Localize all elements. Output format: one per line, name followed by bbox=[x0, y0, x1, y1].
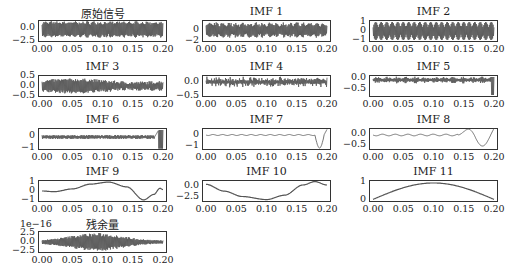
x-tick-label: 0.05 bbox=[221, 98, 251, 109]
y-tick-label: −0.5 bbox=[335, 82, 366, 93]
signal-line bbox=[370, 76, 497, 96]
x-tick-label: 0.10 bbox=[419, 98, 449, 109]
x-tick-label: 0.10 bbox=[252, 203, 282, 214]
x-tick-label: 0.15 bbox=[449, 203, 479, 214]
plot-area bbox=[202, 128, 331, 150]
x-tick-label: 0.00 bbox=[358, 98, 388, 109]
x-tick-label: 0.10 bbox=[88, 98, 118, 109]
signal-line bbox=[203, 21, 330, 41]
signal-line bbox=[370, 129, 497, 149]
plot-area bbox=[202, 75, 331, 97]
signal-line bbox=[203, 129, 330, 149]
plot-area bbox=[38, 180, 167, 202]
x-tick-label: 0.00 bbox=[191, 203, 221, 214]
x-tick-label: 0.00 bbox=[358, 43, 388, 54]
x-tick-label: 0.00 bbox=[191, 98, 221, 109]
y-tick-label: −1 bbox=[168, 139, 199, 150]
x-tick-label: 0.20 bbox=[148, 151, 178, 162]
subplot-title: IMF 7 bbox=[202, 113, 331, 126]
x-tick-label: 0.15 bbox=[118, 203, 148, 214]
x-tick-label: 0.10 bbox=[419, 151, 449, 162]
plot-area bbox=[38, 20, 167, 42]
subplot-title: IMF 5 bbox=[369, 60, 498, 73]
plot-area bbox=[369, 128, 498, 150]
x-tick-label: 0.05 bbox=[388, 98, 418, 109]
x-tick-label: 0.15 bbox=[118, 254, 148, 265]
x-tick-label: 0.20 bbox=[312, 43, 342, 54]
y-tick-label: 0.0 bbox=[4, 21, 35, 32]
subplot-title: IMF 6 bbox=[38, 113, 167, 126]
x-tick-label: 0.15 bbox=[118, 98, 148, 109]
x-tick-label: 0.15 bbox=[118, 151, 148, 162]
x-tick-label: 0.15 bbox=[282, 43, 312, 54]
x-tick-label: 0.20 bbox=[479, 98, 509, 109]
x-tick-label: 0.10 bbox=[252, 151, 282, 162]
plot-area bbox=[369, 75, 498, 97]
signal-line bbox=[39, 129, 166, 149]
signal-line bbox=[39, 21, 166, 41]
x-tick-label: 0.10 bbox=[419, 203, 449, 214]
x-tick-label: 0.10 bbox=[252, 98, 282, 109]
y-tick-label: 1 bbox=[335, 175, 366, 186]
x-tick-label: 0.15 bbox=[282, 203, 312, 214]
plot-area bbox=[369, 180, 498, 202]
x-tick-label: 0.10 bbox=[88, 254, 118, 265]
plot-area bbox=[202, 180, 331, 202]
signal-line bbox=[203, 76, 330, 96]
signal-line bbox=[370, 21, 497, 41]
x-tick-label: 0.15 bbox=[118, 43, 148, 54]
x-tick-label: 0.00 bbox=[27, 254, 57, 265]
y-tick-label: 0.0 bbox=[335, 127, 366, 138]
subplot-title: IMF 8 bbox=[369, 113, 498, 126]
plot-area bbox=[202, 20, 331, 42]
x-tick-label: 0.20 bbox=[479, 203, 509, 214]
x-tick-label: 0.05 bbox=[388, 43, 418, 54]
subplot-title: 残余量 bbox=[38, 216, 167, 232]
x-tick-label: 0.15 bbox=[282, 98, 312, 109]
x-tick-label: 0.00 bbox=[27, 98, 57, 109]
x-tick-label: 0.05 bbox=[388, 203, 418, 214]
x-tick-label: 0.00 bbox=[27, 203, 57, 214]
x-tick-label: 0.00 bbox=[358, 203, 388, 214]
y-tick-label: 0.0 bbox=[335, 71, 366, 82]
signal-line bbox=[39, 232, 166, 252]
subplot-title: IMF 3 bbox=[38, 60, 167, 73]
signal-line bbox=[39, 76, 166, 96]
x-tick-label: 0.05 bbox=[57, 151, 87, 162]
x-tick-label: 0.00 bbox=[27, 151, 57, 162]
x-tick-label: 0.15 bbox=[449, 43, 479, 54]
x-tick-label: 0.10 bbox=[252, 43, 282, 54]
plot-area bbox=[38, 231, 167, 253]
x-tick-label: 0.20 bbox=[479, 43, 509, 54]
plot-area bbox=[38, 128, 167, 150]
x-tick-label: 0.20 bbox=[312, 203, 342, 214]
y-tick-label: 0.0 bbox=[168, 75, 199, 86]
subplot-title: IMF 9 bbox=[38, 165, 167, 178]
x-tick-label: 0.00 bbox=[27, 43, 57, 54]
subplot-title: IMF 1 bbox=[202, 5, 331, 18]
x-tick-label: 0.05 bbox=[57, 254, 87, 265]
x-tick-label: 0.20 bbox=[312, 151, 342, 162]
x-tick-label: 0.15 bbox=[449, 98, 479, 109]
x-tick-label: 0.00 bbox=[191, 151, 221, 162]
x-tick-label: 0.15 bbox=[282, 151, 312, 162]
x-tick-label: 0.20 bbox=[312, 98, 342, 109]
y-tick-label: 0 bbox=[4, 129, 35, 140]
x-tick-label: 0.20 bbox=[148, 254, 178, 265]
x-tick-label: 0.00 bbox=[358, 151, 388, 162]
x-tick-label: 0.05 bbox=[57, 203, 87, 214]
x-tick-label: 0.05 bbox=[221, 43, 251, 54]
x-tick-label: 0.05 bbox=[221, 203, 251, 214]
x-tick-label: 0.05 bbox=[388, 151, 418, 162]
x-tick-label: 0.05 bbox=[57, 98, 87, 109]
x-tick-label: 0.20 bbox=[479, 151, 509, 162]
x-tick-label: 0.20 bbox=[148, 203, 178, 214]
subplot-title: 原始信号 bbox=[38, 5, 167, 21]
x-tick-label: 0.15 bbox=[449, 151, 479, 162]
x-tick-label: 0.10 bbox=[88, 43, 118, 54]
signal-line bbox=[39, 181, 166, 201]
signal-line bbox=[203, 181, 330, 201]
plot-area bbox=[369, 20, 498, 42]
y-tick-label: 0 bbox=[168, 23, 199, 34]
x-tick-label: 0.05 bbox=[57, 43, 87, 54]
